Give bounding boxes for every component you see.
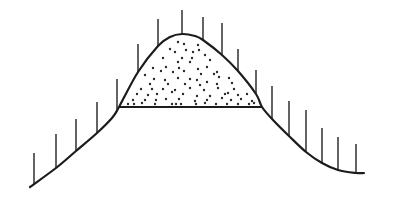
- stipple-dot: [228, 77, 230, 79]
- stipple-dot: [183, 43, 185, 45]
- stipple-dot: [196, 95, 198, 97]
- hill-diagram: [0, 0, 393, 207]
- stipple-dot: [224, 93, 226, 95]
- stipple-dot: [189, 87, 191, 89]
- stipple-dot: [164, 79, 166, 81]
- stipple-dot: [177, 61, 179, 63]
- stipple-dot: [216, 71, 218, 73]
- stipple-dot: [215, 103, 217, 105]
- stipple-dot: [174, 89, 176, 91]
- stipple-dot: [177, 41, 179, 43]
- stipple-dot: [153, 78, 155, 80]
- stipple-dot: [171, 91, 173, 93]
- stipple-dot: [213, 73, 215, 75]
- stipple-dot: [197, 68, 199, 70]
- stipple-dot: [133, 103, 135, 105]
- stipple-dot: [216, 83, 218, 85]
- stipple-dot: [240, 98, 242, 100]
- stipple-dot: [160, 70, 162, 72]
- stipple-dot: [231, 82, 233, 84]
- stipple-dot: [189, 61, 191, 63]
- stipple-dot: [175, 103, 177, 105]
- stipple-dot: [209, 95, 211, 97]
- stipple-dot: [180, 103, 182, 105]
- stipple-dot: [206, 99, 208, 101]
- stipple-dot: [174, 51, 176, 53]
- stipple-dot: [141, 102, 143, 104]
- stipple-dot: [144, 99, 146, 101]
- stipple-region: [127, 41, 255, 105]
- stipple-dot: [246, 93, 248, 95]
- stipple-dot: [248, 103, 250, 105]
- stipple-dot: [233, 88, 235, 90]
- stipple-dot: [203, 89, 205, 91]
- stipple-dot: [178, 98, 180, 100]
- stipple-dot: [253, 102, 255, 104]
- stipple-dot: [178, 67, 180, 69]
- stipple-dot: [147, 94, 149, 96]
- stipple-dot: [237, 94, 239, 96]
- stipple-dot: [132, 99, 134, 101]
- stipple-dot: [185, 49, 187, 51]
- stipple-dot: [196, 79, 198, 81]
- stipple-dot: [177, 77, 179, 79]
- stipple-dot: [218, 76, 220, 78]
- stipple-dot: [155, 99, 157, 101]
- stipple-dot: [199, 84, 201, 86]
- stipple-dot: [221, 97, 223, 99]
- stipple-dot: [227, 92, 229, 94]
- stipple-dot: [162, 57, 164, 59]
- stipple-dot: [195, 103, 197, 105]
- stipple-dot: [182, 93, 184, 95]
- stipple-dot: [156, 93, 158, 95]
- stipple-dot: [172, 71, 174, 73]
- stipple-dot: [237, 103, 239, 105]
- stipple-dot: [136, 93, 138, 95]
- stipple-dot: [191, 57, 193, 59]
- stipple-dot: [197, 44, 199, 46]
- stipple-dot: [230, 99, 232, 101]
- stipple-dot: [217, 87, 219, 89]
- hill-profile-curve: [30, 34, 364, 187]
- stipple-dot: [152, 67, 154, 69]
- stipple-dot: [127, 103, 129, 105]
- stipple-dot: [192, 51, 194, 53]
- stipple-dot: [251, 100, 253, 102]
- stipple-dot: [226, 103, 228, 105]
- stipple-dot: [149, 83, 151, 85]
- stipple-dot: [204, 54, 206, 56]
- stipple-dot: [165, 98, 167, 100]
- stipple-dot: [140, 88, 142, 90]
- stipple-dot: [151, 88, 153, 90]
- stipple-dot: [162, 88, 164, 90]
- stipple-dot: [169, 48, 171, 50]
- stipple-dot: [165, 66, 167, 68]
- stipple-dot: [194, 100, 196, 102]
- stipple-dot: [206, 81, 208, 83]
- stipple-dot: [154, 103, 156, 105]
- stipple-dot: [171, 103, 173, 105]
- stipple-dot: [198, 49, 200, 51]
- stipple-dot: [183, 70, 185, 72]
- stipple-dot: [204, 102, 206, 104]
- stipple-dot: [200, 73, 202, 75]
- stipple-dot: [167, 83, 169, 85]
- stipple-dot: [189, 78, 191, 80]
- stipple-dot: [184, 83, 186, 85]
- stipple-dot: [209, 59, 211, 61]
- stipple-dot: [144, 74, 146, 76]
- stipple-dot: [206, 66, 208, 68]
- stipple-dot: [181, 57, 183, 59]
